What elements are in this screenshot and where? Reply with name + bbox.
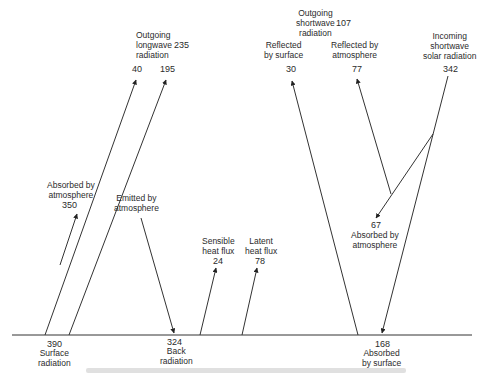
absorbed-atmosphere-sw-label: Absorbed by atmosphere [351,230,399,250]
outgoing-shortwave-label: Outgoing shortwave radiation [296,8,335,38]
arrow-incoming-solar-342 [382,76,448,333]
arrow-reflected-surface-30 [292,81,358,335]
lw-195-value: 195 [160,64,175,74]
latent-heat-label: Latent heat flux [245,236,277,256]
lw-40-value: 40 [132,64,142,74]
incoming-solar-value: 342 [443,64,458,74]
emitted-atmosphere-label: Emitted by atmosphere [114,193,159,213]
outgoing-shortwave-value: 107 [336,18,351,28]
sensible-heat-label: Sensible heat flux [202,236,235,256]
absorbed-atmosphere-sw-value: 67 [371,220,381,230]
arrow-absorbed-atmosphere-67 [376,134,433,218]
arrow-absorbed-atmosphere-350 [60,214,77,265]
arrow-sensible-heat [200,268,216,335]
arrow-latent-heat [242,268,257,335]
absorbed-atmosphere-lw-value: 350 [62,200,77,210]
energy-budget-diagram: Outgoing longwave radiation 235 40 195 O… [0,0,488,379]
arrow-reflected-atmosphere-77 [357,79,391,194]
reflected-atmosphere-label: Reflected by atmosphere [331,40,378,60]
outgoing-longwave-value: 235 [174,40,189,50]
reflected-atmosphere-value: 77 [352,64,362,74]
incoming-solar-label: Incoming shortwave solar radiation [423,31,476,61]
absorbed-atmosphere-lw-label: Absorbed by atmosphere [47,180,95,200]
arrow-emitted-upper [136,80,166,188]
back-radiation-label: Back radiation [160,346,193,366]
faded-caption [86,368,406,373]
outgoing-longwave-label: Outgoing longwave radiation [136,30,172,60]
absorbed-surface-label: Absorbed by surface [362,348,401,368]
reflected-surface-value: 30 [286,64,296,74]
latent-heat-value: 78 [255,256,265,266]
sensible-heat-value: 24 [213,256,223,266]
reflected-surface-label: Reflected by surface [264,40,303,60]
arrow-back-radiation-324 [141,218,174,333]
surface-radiation-label: Surface radiation [38,348,71,368]
